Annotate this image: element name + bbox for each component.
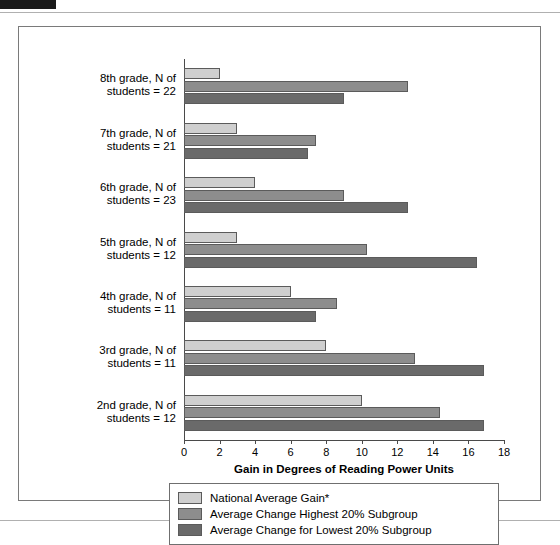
category-label-line: 2nd grade, N of (26, 399, 176, 412)
bar (184, 81, 408, 92)
legend-swatch-highest-subgroup (178, 508, 202, 520)
chart-legend: National Average Gain* Average Change Hi… (169, 483, 499, 545)
top-divider-rule (0, 12, 560, 13)
legend-label-highest-subgroup: Average Change Highest 20% Subgroup (210, 508, 418, 520)
x-tick (255, 440, 256, 444)
legend-item: National Average Gain* (178, 490, 490, 506)
category-label: 2nd grade, N ofstudents = 12 (26, 399, 176, 425)
bar (184, 365, 484, 376)
category-label: 6th grade, N ofstudents = 23 (26, 181, 176, 207)
category-label-line: students = 11 (26, 357, 176, 370)
category-label: 8th grade, N ofstudents = 22 (26, 72, 176, 98)
x-tick (326, 440, 327, 444)
bar (184, 420, 484, 431)
x-tick-label: 12 (385, 446, 409, 458)
legend-swatch-national-average (178, 492, 202, 504)
category-label-line: 6th grade, N of (26, 181, 176, 194)
bar (184, 93, 344, 104)
bar (184, 353, 415, 364)
category-label: 3rd grade, N ofstudents = 11 (26, 344, 176, 370)
x-tick (504, 440, 505, 444)
x-tick (291, 440, 292, 444)
category-label-line: 5th grade, N of (26, 236, 176, 249)
x-tick (184, 440, 185, 444)
category-label-line: students = 23 (26, 194, 176, 207)
bar (184, 68, 220, 79)
legend-swatch-lowest-subgroup (178, 524, 202, 536)
legend-item: Average Change for Lowest 20% Subgroup (178, 522, 490, 538)
x-tick-label: 10 (350, 446, 374, 458)
bar (184, 298, 337, 309)
bar (184, 148, 308, 159)
x-tick (397, 440, 398, 444)
category-label-line: 4th grade, N of (26, 290, 176, 303)
bar (184, 244, 367, 255)
bar (184, 190, 344, 201)
bar (184, 232, 237, 243)
bar (184, 177, 255, 188)
bar (184, 286, 291, 297)
legend-label-lowest-subgroup: Average Change for Lowest 20% Subgroup (210, 524, 432, 536)
bar (184, 135, 316, 146)
category-label-line: students = 22 (26, 85, 176, 98)
legend-item: Average Change Highest 20% Subgroup (178, 506, 490, 522)
x-tick-label: 18 (492, 446, 516, 458)
x-tick-label: 16 (456, 446, 480, 458)
x-tick-label: 2 (208, 446, 232, 458)
category-label-line: students = 12 (26, 249, 176, 262)
category-label-line: students = 11 (26, 303, 176, 316)
category-label-line: 7th grade, N of (26, 127, 176, 140)
x-tick-label: 14 (421, 446, 445, 458)
x-tick-label: 0 (172, 446, 196, 458)
bar (184, 395, 362, 406)
bar (184, 340, 326, 351)
category-label-line: 3rd grade, N of (26, 344, 176, 357)
category-label-line: students = 12 (26, 412, 176, 425)
x-axis-title: Gain in Degrees of Reading Power Units (184, 463, 504, 475)
bar (184, 202, 408, 213)
category-label-line: students = 21 (26, 140, 176, 153)
bar (184, 311, 316, 322)
page-corner-marker (0, 0, 56, 9)
x-tick (220, 440, 221, 444)
x-tick-label: 4 (243, 446, 267, 458)
category-label: 4th grade, N ofstudents = 11 (26, 290, 176, 316)
bar (184, 407, 440, 418)
x-tick-label: 6 (279, 446, 303, 458)
x-tick-label: 8 (314, 446, 338, 458)
bar (184, 257, 477, 268)
category-label: 7th grade, N ofstudents = 21 (26, 127, 176, 153)
x-tick (362, 440, 363, 444)
category-label-line: 8th grade, N of (26, 72, 176, 85)
legend-label-national-average: National Average Gain* (210, 492, 329, 504)
figure-container: 8th grade, N ofstudents = 227th grade, N… (18, 26, 541, 501)
x-tick (433, 440, 434, 444)
category-label: 5th grade, N ofstudents = 12 (26, 236, 176, 262)
x-axis-line (184, 440, 504, 441)
bar (184, 123, 237, 134)
x-tick (468, 440, 469, 444)
